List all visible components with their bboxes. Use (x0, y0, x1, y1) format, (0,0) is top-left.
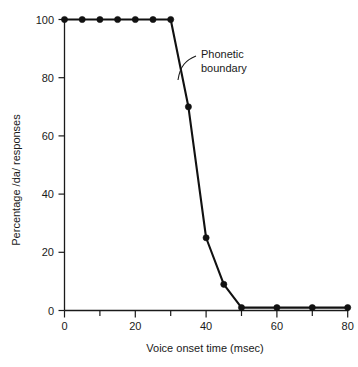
y-tick-label-100: 100 (36, 14, 54, 26)
x-tick-label-60: 60 (271, 320, 283, 332)
x-tick-label-20: 20 (129, 320, 141, 332)
x-tick-label-40: 40 (200, 320, 212, 332)
data-point (185, 104, 191, 110)
data-series-markers (61, 16, 350, 310)
y-tick-label-0: 0 (48, 305, 54, 317)
y-tick-label-60: 60 (42, 130, 54, 142)
data-point (97, 16, 103, 22)
data-point (150, 16, 156, 22)
y-axis-title: Percentage /da/ responses (10, 114, 22, 246)
data-point (238, 304, 244, 310)
y-tick-label-80: 80 (42, 72, 54, 84)
data-point (345, 304, 351, 310)
x-tick-label-80: 80 (342, 320, 354, 332)
annotation-label-line-1: Phonetic (201, 48, 244, 60)
x-axis-title: Voice onset time (msec) (146, 342, 263, 354)
categorical-perception-chart: Percentage /da/ responses Voice onset ti… (0, 0, 358, 367)
chart-container: Percentage /da/ responses Voice onset ti… (0, 0, 358, 367)
data-point (79, 16, 85, 22)
data-point (309, 304, 315, 310)
y-tick-label-40: 40 (42, 188, 54, 200)
data-point (221, 281, 227, 287)
data-point (61, 16, 67, 22)
data-point (168, 16, 174, 22)
data-point (115, 16, 121, 22)
data-point (274, 304, 280, 310)
phonetic-boundary-annotation: Phonetic boundary (178, 48, 247, 80)
annotation-label-line-2: boundary (201, 62, 247, 74)
x-tick-label-0: 0 (61, 320, 67, 332)
data-point (203, 235, 209, 241)
y-axis-ticks: 100 80 60 40 20 0 (36, 14, 65, 317)
data-point (132, 16, 138, 22)
x-axis-ticks: 0 20 40 60 80 (61, 311, 353, 333)
y-tick-label-20: 20 (42, 246, 54, 258)
